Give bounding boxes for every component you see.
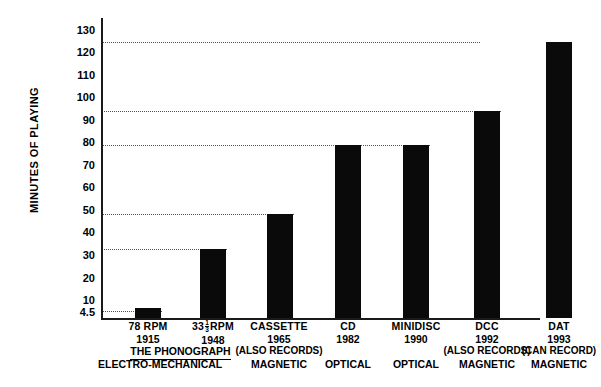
bar-78-rpm [135,308,161,318]
fraction-denominator: 3 [205,327,210,334]
col-name-dat: DAT [509,320,601,333]
col-name-33-rpm-prefix: 33 [192,320,204,332]
y-tick-10: 10 [83,295,95,306]
plot-area [101,18,540,318]
col-tech-dat: MAGNETIC [509,358,601,371]
y-tick-40: 40 [83,227,95,238]
y-tick-20: 20 [83,273,95,284]
y-axis-line [101,18,103,319]
gridline-120 [102,42,480,43]
phonograph-group-label: THE PHONOGRAPH [98,345,263,360]
y-tick-110: 110 [77,70,95,81]
y-tick-100: 100 [77,92,95,103]
col-label-dat: DAT 1993 (CAN RECORD) MAGNETIC [509,320,601,370]
y-tick-70: 70 [83,160,95,171]
fraction-one-third: 13 [205,320,210,334]
y-tick-30: 30 [83,250,95,261]
x-axis-column-labels: 78 RPM 1915 ELECTRO-MECHANICAL 3313RPM 1… [101,320,540,387]
bar-minidisc [403,145,429,318]
col-year-dat: 1993 [509,333,601,346]
y-tick-50: 50 [83,205,95,216]
y-axis-title: MINUTES OF PLAYING [28,50,40,250]
y-tick-130: 130 [77,25,95,36]
bar-dat [546,42,572,318]
bar-dcc [474,111,500,318]
phonograph-label-text: THE PHONOGRAPH [130,345,230,360]
gridline-75 [102,145,430,146]
y-tick-60: 60 [83,182,95,193]
y-tick-4.5: 4.5 [80,307,95,318]
y-tick-120: 120 [77,47,95,58]
gridline-90 [102,111,501,112]
bar-33-rpm [200,249,226,318]
y-tick-80: 80 [83,137,95,148]
col-note-dat: (CAN RECORD) [509,345,601,358]
bar-cd [335,145,361,318]
gridline-45 [102,214,294,215]
bar-cassette [267,214,293,318]
y-tick-90: 90 [83,115,95,126]
y-axis-tick-labels: 4.5 10 20 30 40 50 60 70 80 90 100 110 1… [55,18,95,320]
